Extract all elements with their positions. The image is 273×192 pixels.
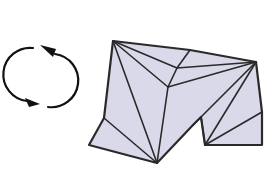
origami-diagram <box>0 0 273 192</box>
paper-model <box>89 41 262 163</box>
diagram-canvas <box>0 0 273 192</box>
paper-outline <box>89 41 262 163</box>
rotate-arrows-icon <box>3 45 78 107</box>
